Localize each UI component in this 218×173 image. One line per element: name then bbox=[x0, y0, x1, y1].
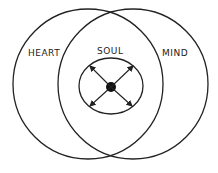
soul-label: SOUL bbox=[97, 46, 123, 56]
mind-circle bbox=[58, 9, 208, 159]
arrow-up-right bbox=[111, 66, 133, 87]
heart-circle bbox=[13, 9, 163, 159]
arrow-down-left bbox=[90, 87, 111, 106]
arrow-up-left bbox=[90, 66, 111, 87]
venn-diagram: HEART SOUL MIND bbox=[0, 0, 218, 173]
mind-label: MIND bbox=[162, 48, 188, 58]
heart-label: HEART bbox=[28, 48, 60, 58]
arrow-down-right bbox=[111, 87, 132, 106]
